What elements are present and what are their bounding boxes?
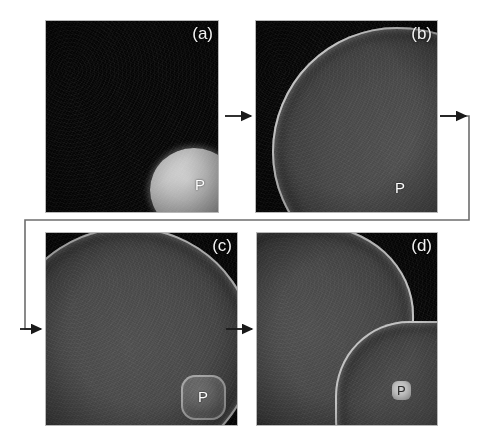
- panel-c-image: P (c): [46, 233, 237, 425]
- panel-label-b: (b): [411, 24, 432, 44]
- marker-label-c: P: [198, 388, 208, 405]
- panel-a: P (a): [46, 21, 218, 212]
- grown-lobe-b: [272, 27, 437, 212]
- panel-label-c: (c): [212, 236, 232, 256]
- marker-label-d: P: [397, 383, 406, 398]
- panel-label-a: (a): [192, 24, 213, 44]
- panel-b: P (b): [256, 21, 437, 212]
- panel-label-d: (d): [411, 236, 432, 256]
- panel-b-image: P (b): [256, 21, 437, 212]
- particle-bright-a: [150, 148, 218, 212]
- panel-c: P (c): [46, 233, 237, 425]
- marker-label-a: P: [195, 176, 205, 193]
- panel-d-image: P (d): [257, 233, 437, 425]
- panel-a-image: P (a): [46, 21, 218, 212]
- marker-label-b: P: [395, 179, 405, 196]
- panel-d: P (d): [257, 233, 437, 425]
- figure-root: P (a) P (b) P (c) P: [0, 0, 482, 441]
